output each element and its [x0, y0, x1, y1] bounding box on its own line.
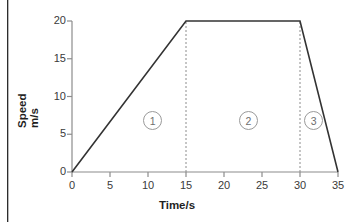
x-tick-label: 15 — [171, 179, 201, 191]
x-tick-label: 0 — [57, 179, 87, 191]
x-axis-title: Time/s — [0, 199, 354, 211]
speed-time-graph-figure: 05101520 05101520253035 Speed m/s Time/s… — [0, 0, 354, 222]
y-tick-label: 0 — [40, 165, 66, 177]
x-tick-label: 10 — [133, 179, 163, 191]
y-tick-marks — [67, 21, 72, 172]
x-tick-label: 20 — [209, 179, 239, 191]
x-tick-label: 30 — [285, 179, 315, 191]
guide-lines-group — [186, 21, 300, 172]
y-axis-title-line2: m/s — [28, 93, 40, 128]
x-tick-label: 35 — [323, 179, 353, 191]
x-tick-label: 5 — [95, 179, 125, 191]
axes-group — [72, 21, 338, 172]
y-axis-title: Speed m/s — [16, 93, 40, 128]
speed-curve — [72, 21, 338, 172]
x-tick-marks — [72, 172, 338, 177]
region-badge-2: 2 — [239, 111, 258, 130]
y-tick-label: 5 — [40, 127, 66, 139]
data-series-group — [72, 21, 338, 172]
y-axis-title-line1: Speed — [16, 93, 28, 128]
y-tick-label: 15 — [40, 52, 66, 64]
x-tick-label: 25 — [247, 179, 277, 191]
y-tick-label: 10 — [40, 90, 66, 102]
y-tick-label: 20 — [40, 14, 66, 26]
